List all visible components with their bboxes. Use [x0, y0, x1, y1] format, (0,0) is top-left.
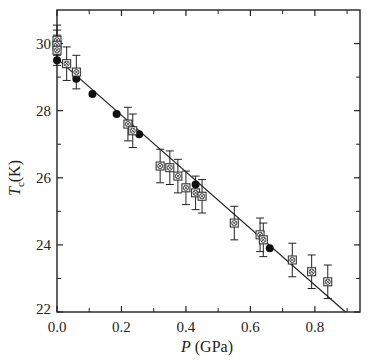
crossed-square-marker	[230, 219, 238, 227]
tc-vs-pressure-chart: 0.00.20.40.60.82224262830 P (GPa) Tc(K)	[0, 0, 368, 360]
filled-circle-marker	[88, 90, 96, 98]
crossed-square-marker	[198, 192, 206, 200]
crossed-square-marker	[182, 184, 190, 192]
x-tick-label: 0.8	[305, 319, 324, 335]
fit-line	[57, 59, 345, 312]
filled-circle-marker	[113, 110, 121, 118]
crossed-square-marker	[324, 278, 332, 286]
axis-ticks	[57, 10, 360, 312]
x-axis-label: P (GPa)	[180, 338, 233, 356]
crossed-square-marker	[156, 162, 164, 170]
x-tick-label: 0.4	[177, 319, 196, 335]
filled-circle-marker	[53, 56, 61, 64]
x-tick-label: 0.6	[241, 319, 260, 335]
crossed-square-marker	[53, 46, 61, 54]
crossed-square-marker	[288, 256, 296, 264]
data-markers	[53, 36, 332, 286]
crossed-square-marker	[129, 127, 137, 135]
crossed-square-marker	[166, 164, 174, 172]
crossed-square-marker	[63, 60, 71, 68]
x-tick-label: 0.2	[112, 319, 131, 335]
y-tick-label: 22	[36, 301, 51, 317]
y-tick-label: 26	[36, 170, 52, 186]
y-tick-label: 24	[36, 237, 52, 253]
y-axis-label: Tc(K)	[6, 160, 26, 196]
y-tick-label: 28	[36, 103, 51, 119]
plot-frame	[57, 10, 360, 312]
crossed-square-marker	[308, 268, 316, 276]
filled-circle-marker	[192, 180, 200, 188]
crossed-square-marker	[72, 68, 80, 76]
filled-circle-marker	[266, 244, 274, 252]
plot-border	[57, 10, 360, 312]
y-tick-label: 30	[36, 36, 51, 52]
crossed-square-marker	[174, 172, 182, 180]
crossed-square-marker	[259, 236, 267, 244]
linear-fit-line	[57, 59, 345, 312]
x-tick-label: 0.0	[48, 319, 67, 335]
